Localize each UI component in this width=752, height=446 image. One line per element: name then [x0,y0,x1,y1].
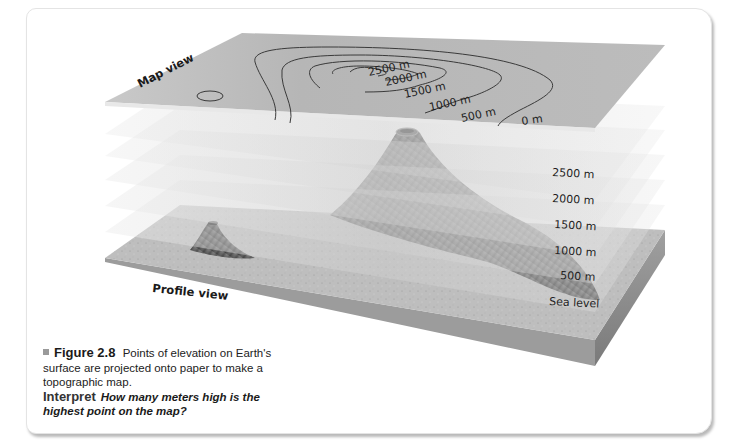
layer-label-2500: 2500 m [552,166,595,181]
layer-label-2000: 2000 m [552,192,595,207]
figure-number: Figure 2.8 [54,345,115,360]
layer-label-sea-level: Sea level [549,295,600,311]
layer-label-1000: 1000 m [554,244,597,259]
layer-label-1500: 1500 m [554,218,597,233]
interpret-label: Interpret [43,389,96,404]
figure-caption: Figure 2.8 Points of elevation on Earth'… [43,346,283,419]
layer-label-500: 500 m [560,269,596,284]
caption-bullet-icon [43,349,49,355]
